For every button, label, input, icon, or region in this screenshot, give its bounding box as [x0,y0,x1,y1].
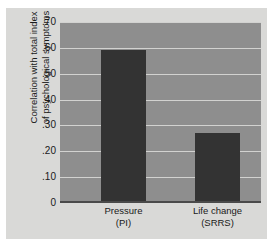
gridline [60,22,261,23]
y-axis-tick-labels: .70 .60 .50 .40 .30 .20 .10 0 [6,22,56,203]
x-axis-line [60,201,261,203]
gridline [60,74,261,75]
bar-pressure-pi [101,50,146,203]
y-tick-label: .60 [10,43,56,53]
bar-life-change-srrs [195,133,240,203]
y-tick-label: 0 [10,198,56,208]
x-tick-label-life-change: Life change (SRRS) [193,205,242,228]
x-tick-label-line-2: (SRRS) [193,217,242,229]
x-tick-label-pressure: Pressure (PI) [104,205,142,228]
gridline [60,125,261,126]
y-tick-label: .50 [10,69,56,79]
y-tick-label: .20 [10,146,56,156]
y-tick-label: .30 [10,120,56,130]
y-tick-label: .40 [10,95,56,105]
plot-area [60,22,261,203]
x-tick-label-line-2: (PI) [104,217,142,229]
x-tick-label-line-1: Life change [193,205,242,216]
chart-figure: Correlation with total index of psycholo… [6,8,267,239]
y-tick-label: .70 [10,17,56,27]
y-tick-label: .10 [10,172,56,182]
gridline [60,100,261,101]
gridline [60,48,261,49]
x-axis-tick-labels: Pressure (PI) Life change (SRRS) [60,205,261,237]
x-tick-label-line-1: Pressure [104,205,142,216]
